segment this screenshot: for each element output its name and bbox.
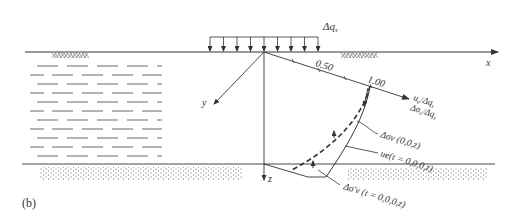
effective-stress-label: Δσ′v (t = 0,0,0,z) xyxy=(341,181,407,211)
surface-hatch-left xyxy=(52,53,89,58)
surface-hatch-right xyxy=(341,53,378,58)
sand-layer-right xyxy=(348,168,488,180)
distributed-load xyxy=(210,37,318,51)
depth-profile-bottom xyxy=(264,164,326,177)
y-axis xyxy=(214,52,264,104)
pore-pressure-curve xyxy=(290,86,370,171)
load-label: Δqs xyxy=(322,20,338,34)
x-axis-label: x xyxy=(485,57,491,68)
total-stress-leader xyxy=(357,121,378,134)
response-axis xyxy=(264,52,409,99)
pore-pressure-leader xyxy=(345,146,378,153)
consolidation-diagram: x Δqs xyxy=(0,0,516,216)
z-axis-label: z xyxy=(267,173,272,184)
panel-label: (b) xyxy=(22,196,36,210)
clay-layer-pattern xyxy=(30,66,162,156)
total-stress-curve xyxy=(326,86,370,177)
tick-label-0-50: 0.50 xyxy=(314,57,334,73)
sand-layer-left xyxy=(40,167,243,180)
y-axis-label: y xyxy=(201,97,207,108)
